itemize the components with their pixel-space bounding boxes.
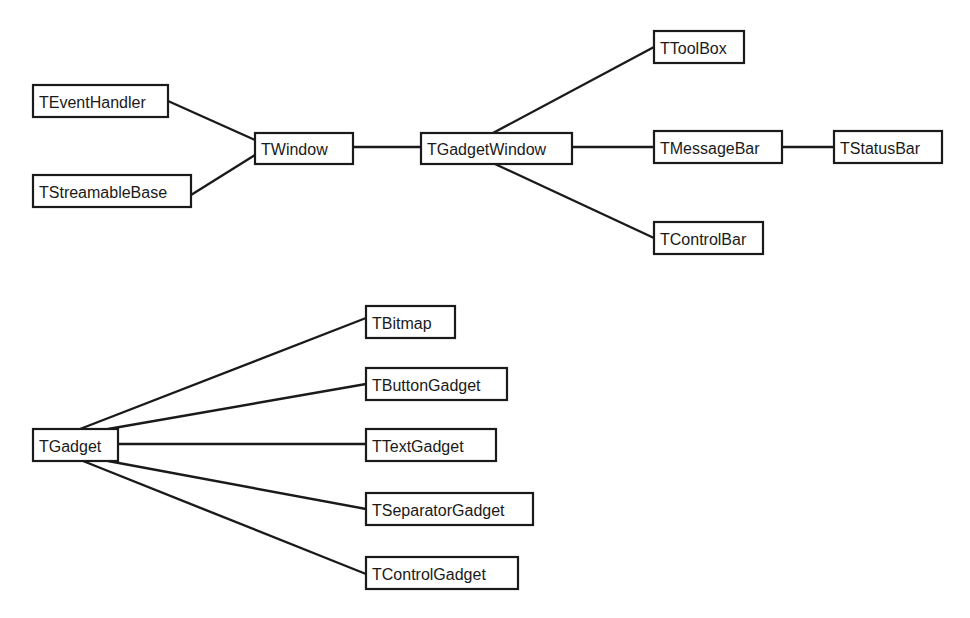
class-label: TWindow: [261, 141, 328, 158]
class-node-t-gadget: TGadget: [33, 429, 118, 461]
class-node-t-separator-gadget: TSeparatorGadget: [366, 493, 533, 525]
class-node-t-status-bar: TStatusBar: [834, 131, 942, 163]
class-label: TToolBox: [660, 40, 727, 57]
class-label: TTextGadget: [372, 438, 464, 455]
class-label: TGadget: [39, 438, 102, 455]
class-label: TStatusBar: [840, 140, 921, 157]
class-node-t-window: TWindow: [255, 133, 353, 164]
nodes-layer: TEventHandlerTStreamableBaseTWindowTGadg…: [33, 31, 942, 589]
class-label: TEventHandler: [39, 94, 146, 111]
class-label: TStreamableBase: [39, 184, 167, 201]
class-node-t-message-bar: TMessageBar: [654, 131, 782, 163]
edge-t-gadget-window-to-t-tool-box: [493, 47, 654, 133]
class-node-t-control-bar: TControlBar: [654, 222, 763, 254]
class-node-t-control-gadget: TControlGadget: [366, 557, 518, 589]
class-node-t-button-gadget: TButtonGadget: [366, 368, 507, 400]
class-label: TControlBar: [660, 231, 747, 248]
edge-t-gadget-to-t-control-gadget: [83, 461, 366, 574]
class-label: TGadgetWindow: [427, 141, 547, 158]
class-node-t-text-gadget: TTextGadget: [366, 429, 496, 461]
class-label: TButtonGadget: [372, 377, 481, 394]
class-label: TMessageBar: [660, 140, 760, 157]
class-node-t-tool-box: TToolBox: [654, 31, 744, 63]
class-node-t-bitmap: TBitmap: [366, 306, 455, 338]
edge-t-streamable-base-to-t-window: [191, 155, 255, 195]
edge-t-gadget-to-t-bitmap: [80, 318, 366, 429]
class-hierarchy-diagram: TEventHandlerTStreamableBaseTWindowTGadg…: [0, 0, 970, 618]
class-node-t-gadget-window: TGadgetWindow: [421, 133, 572, 164]
edge-t-gadget-to-t-button-gadget: [108, 384, 366, 429]
edge-t-gadget-to-t-separator-gadget: [108, 461, 366, 509]
class-label: TSeparatorGadget: [372, 502, 505, 519]
class-node-t-event-handler: TEventHandler: [33, 85, 168, 117]
edge-t-event-handler-to-t-window: [168, 101, 255, 140]
edge-t-gadget-window-to-t-control-bar: [495, 164, 654, 238]
class-label: TBitmap: [372, 315, 432, 332]
class-label: TControlGadget: [372, 566, 486, 583]
class-node-t-streamable-base: TStreamableBase: [33, 175, 191, 207]
